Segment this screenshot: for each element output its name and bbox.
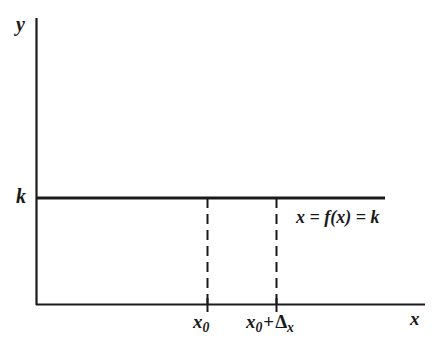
k-value-label: k xyxy=(16,186,26,206)
tick-label-x0-base: x xyxy=(193,311,203,332)
tick-label-plus-operator: + xyxy=(262,311,275,332)
constant-function-figure: y k x x0 x0+Δx x = f(x) = k xyxy=(0,0,444,349)
equation-label: x = f(x) = k xyxy=(296,208,380,226)
tick-label-x0-subscript: 0 xyxy=(203,320,210,335)
tick-label-x0: x0 xyxy=(193,312,209,335)
figure-canvas xyxy=(0,0,444,349)
x-axis-label: x xyxy=(410,309,420,328)
tick-label-x0-delta: x0+Δx xyxy=(246,312,294,335)
tick-label-x0-delta-base: x xyxy=(246,311,256,332)
delta-symbol: Δ xyxy=(275,311,287,332)
delta-subscript: x xyxy=(287,320,294,335)
y-axis-label: y xyxy=(16,14,25,34)
